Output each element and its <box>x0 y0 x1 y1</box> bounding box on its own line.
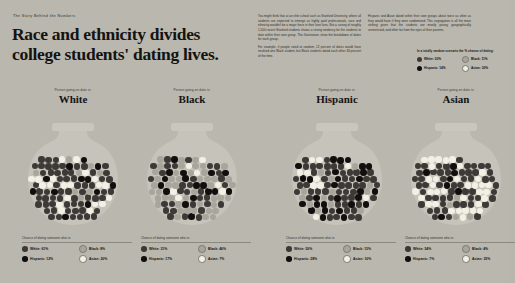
jar-dot <box>51 207 58 214</box>
jar-dot <box>322 188 329 195</box>
jar-dot <box>322 207 329 214</box>
jar-dot <box>331 163 338 170</box>
jar-dot <box>412 188 419 195</box>
jar-dot <box>182 201 189 208</box>
jar-dot <box>442 207 449 214</box>
jar-dot <box>297 182 304 189</box>
jar-dot <box>102 182 109 189</box>
jar-legend-item: White: 50% <box>286 245 339 253</box>
jar-dot <box>355 194 362 201</box>
legend-item-label: Black: 46% <box>208 247 226 251</box>
jar-dot <box>49 201 56 208</box>
jar-dot <box>348 201 355 208</box>
kicker-label: The Story Behind the Numbers <box>13 14 76 18</box>
jar-dot <box>316 157 323 164</box>
jar-dot-field <box>397 110 515 228</box>
jar-dot <box>465 182 472 189</box>
jar-dot <box>301 188 308 195</box>
jar-dot <box>35 201 42 208</box>
jar-dot <box>62 214 69 221</box>
random-legend-item: Asian: 30% <box>462 65 503 72</box>
jar-graphic <box>14 110 132 228</box>
jar-dot <box>436 163 443 170</box>
jar-dot <box>82 169 89 176</box>
jar-dot <box>192 163 199 170</box>
jar-dot <box>193 182 200 189</box>
jar-dot <box>176 176 183 183</box>
jar-dot <box>320 214 327 221</box>
jar-dot <box>460 195 467 202</box>
jar-dot <box>42 195 49 202</box>
legend-color-swatch <box>405 256 411 262</box>
jar-dot <box>85 201 92 208</box>
jar-dot <box>71 175 78 182</box>
jar-dot <box>172 163 179 170</box>
jar-dot <box>73 156 80 163</box>
jar-dot <box>345 157 352 164</box>
jar-dot <box>356 176 363 183</box>
body-paragraph: For example, if people rated at random, … <box>258 45 361 59</box>
jar-dot <box>357 207 364 214</box>
jar-dot <box>337 157 344 164</box>
jar-dot <box>478 163 485 170</box>
random-legend-item: Black: 11% <box>462 56 503 63</box>
jar-dot <box>212 208 219 215</box>
jar-dot <box>434 189 441 196</box>
jar-dot <box>428 156 435 163</box>
jar-group-name: Hispanic <box>278 93 396 106</box>
jar-dot <box>156 189 163 196</box>
jar-dot <box>345 163 352 170</box>
jar-dot <box>294 189 301 196</box>
jar-dot <box>306 195 313 202</box>
jar-dot <box>198 207 205 214</box>
jar-dot <box>99 195 106 202</box>
jar-dot <box>440 176 447 183</box>
jar-dot <box>215 182 222 189</box>
jar-dot <box>328 201 335 208</box>
jar-dot <box>90 169 97 176</box>
jar-dot <box>418 195 425 202</box>
jar-dot <box>44 189 51 196</box>
jar-dot <box>35 176 42 183</box>
legend-color-swatch <box>462 245 470 253</box>
jar-legend-item: White: 61% <box>22 245 75 253</box>
jar-dot <box>95 163 102 170</box>
jar-dot <box>229 182 236 189</box>
jar-dot <box>475 195 482 202</box>
jar-dot <box>222 170 229 177</box>
jar-dot <box>489 195 496 202</box>
legend-item-label: Hispanic: 12% <box>30 257 53 261</box>
legend-item-label: Black: 11% <box>471 57 488 61</box>
legend-item-label: Asian: 30% <box>471 66 488 70</box>
jar-dot <box>457 182 464 189</box>
jar-dot <box>161 201 168 208</box>
jar-dot <box>65 208 72 215</box>
jar-group-name: Asian <box>397 93 515 106</box>
jar-dot <box>28 176 35 183</box>
jar-dot <box>66 163 73 170</box>
random-scenario-legend: In a totally random scenario the % chanc… <box>417 49 503 72</box>
jar-legend-item: Hispanic: 17% <box>141 255 194 263</box>
jar-dot <box>184 189 191 196</box>
jar-dot <box>485 182 492 189</box>
jar-dot <box>48 169 55 176</box>
legend-color-swatch <box>462 65 469 72</box>
jar-dot <box>151 182 158 189</box>
jar-legend-item: Black: 13% <box>343 245 396 253</box>
jar-dot <box>297 169 304 176</box>
jar-dot <box>198 188 205 195</box>
jar-dot <box>197 201 204 208</box>
jar-dot <box>168 195 175 202</box>
jar-dot <box>357 188 364 195</box>
jar-dot <box>163 188 170 195</box>
jar-dot <box>366 163 373 170</box>
jar-dot <box>88 163 95 170</box>
jar-dot <box>472 182 479 189</box>
jar-dot <box>341 214 348 221</box>
jar-dot <box>348 194 355 201</box>
legend-color-swatch <box>417 66 422 71</box>
jar-legend-item: Black: 46% <box>198 245 251 253</box>
jar-dot <box>468 201 475 208</box>
jar-dot <box>45 157 52 164</box>
jar-dot <box>367 169 374 176</box>
